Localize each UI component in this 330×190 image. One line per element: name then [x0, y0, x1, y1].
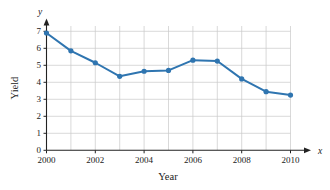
y-axis — [44, 19, 50, 151]
x-tick-label: 2004 — [135, 155, 154, 165]
y-tick-label: 4 — [37, 77, 42, 87]
data-point — [264, 89, 269, 94]
x-tick-label: 2000 — [38, 155, 57, 165]
data-point — [215, 58, 220, 63]
x-axis-title: Year — [158, 171, 178, 182]
data-point — [190, 58, 195, 63]
y-tick-label: 7 — [37, 26, 42, 36]
data-point — [93, 60, 98, 65]
y-tick-label: 5 — [37, 60, 42, 70]
data-point — [68, 48, 73, 53]
x-tick-label: 2002 — [86, 155, 104, 165]
y-tick-label: 1 — [37, 128, 42, 138]
y-tick-label: 2 — [37, 111, 42, 121]
x-tick-label: 2010 — [282, 155, 301, 165]
y-axis-symbol: y — [37, 7, 43, 17]
data-point — [166, 68, 171, 73]
y-tick-label: 6 — [37, 43, 42, 53]
data-point — [117, 74, 122, 79]
y-tick-label: 0 — [37, 145, 42, 155]
data-point — [142, 69, 147, 74]
data-point — [44, 30, 49, 35]
x-tick-label: 2008 — [233, 155, 252, 165]
vertical-gridlines — [47, 26, 291, 150]
x-axis-symbol: x — [317, 146, 323, 156]
chart-figure: 0 1 2 3 4 5 6 7 2000 2002 2004 2006 2008… — [0, 0, 330, 190]
y-tick-labels: 0 1 2 3 4 5 6 7 — [37, 26, 42, 155]
line-chart: 0 1 2 3 4 5 6 7 2000 2002 2004 2006 2008… — [0, 0, 330, 190]
y-axis-title: Yield — [9, 76, 20, 99]
x-axis — [47, 147, 312, 153]
data-point — [239, 76, 244, 81]
x-tick-label: 2006 — [184, 155, 203, 165]
x-tick-labels: 2000 2002 2004 2006 2008 2010 — [38, 155, 301, 165]
y-tick-label: 3 — [37, 94, 42, 104]
data-point — [288, 92, 293, 97]
